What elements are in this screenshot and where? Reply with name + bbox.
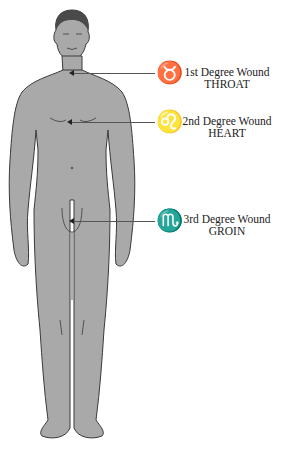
throat-label: 1st Degree Wound THROAT — [172, 66, 282, 90]
groin-pointer-line — [72, 221, 155, 222]
heart-pointer-line — [70, 122, 155, 123]
groin-wound-degree: 3rd Degree Wound — [172, 213, 282, 225]
throat-wound-degree: 1st Degree Wound — [172, 66, 282, 78]
groin-label: 3rd Degree Wound GROIN — [172, 213, 282, 237]
heart-wound-degree: 2nd Degree Wound — [172, 115, 282, 127]
throat-pointer-line — [72, 73, 155, 74]
groin-pointer-arrow — [69, 218, 74, 224]
groin-body-part: GROIN — [172, 225, 282, 237]
throat-pointer-arrow — [69, 70, 74, 76]
heart-label: 2nd Degree Wound HEART — [172, 115, 282, 139]
heart-body-part: HEART — [172, 127, 282, 139]
throat-body-part: THROAT — [172, 78, 282, 90]
heart-pointer-arrow — [67, 119, 72, 125]
